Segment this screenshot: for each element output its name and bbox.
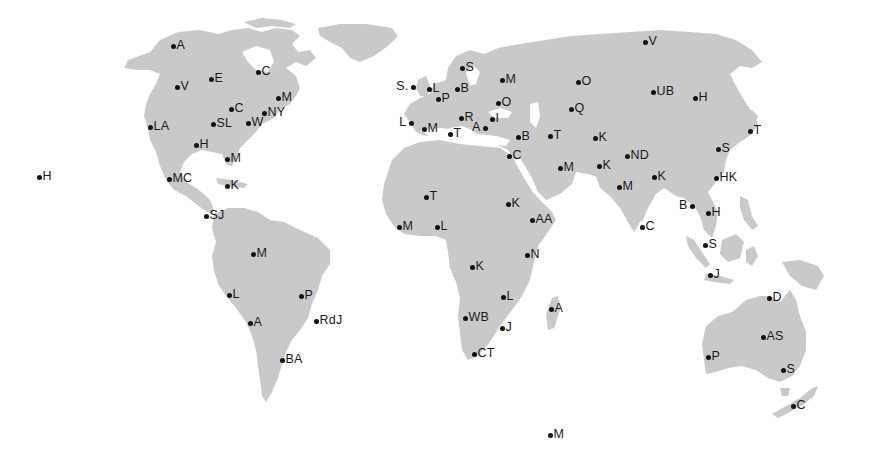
city-marker[interactable]: M [500,73,517,85]
city-dot-icon [167,177,172,182]
city-marker[interactable]: H [706,206,721,218]
city-marker[interactable]: WB [463,311,490,323]
city-marker[interactable]: L [399,116,413,128]
city-marker[interactable]: V [175,80,190,92]
city-dot-icon [652,175,657,180]
city-dot-icon [781,368,786,373]
city-marker[interactable]: S [460,61,475,73]
city-marker[interactable]: V [643,35,658,47]
city-dot-icon [507,154,512,159]
city-marker[interactable]: C [507,149,522,161]
city-marker[interactable]: A [549,302,564,314]
city-marker[interactable]: C [791,399,806,411]
city-marker[interactable]: LA [148,120,170,132]
city-dot-icon [299,294,304,299]
city-label: J [714,268,720,280]
city-label: B [522,130,531,142]
city-marker[interactable]: O [576,75,592,87]
city-marker[interactable]: CT [472,347,495,359]
city-dot-icon [248,321,253,326]
city-marker[interactable]: RdJ [314,314,343,326]
city-marker[interactable]: S [716,142,731,154]
city-marker[interactable]: J [708,268,720,280]
city-marker[interactable]: L [501,290,514,302]
city-marker[interactable]: S [781,363,796,375]
city-marker[interactable]: NY [262,106,286,118]
city-marker[interactable]: SJ [204,209,225,221]
city-label: C [513,149,522,161]
city-dot-icon [314,319,319,324]
city-marker[interactable]: M [558,161,575,173]
city-dot-icon [690,204,695,209]
city-marker[interactable]: I [490,112,500,124]
city-label: M [506,73,517,85]
city-label: H [43,170,52,182]
city-marker[interactable]: O [496,96,512,108]
city-marker[interactable]: P [706,350,721,362]
city-dot-icon [791,404,796,409]
city-marker[interactable]: M [422,122,439,134]
city-marker[interactable]: S [703,238,718,250]
city-marker[interactable]: H [194,138,209,150]
city-marker[interactable]: L [435,220,448,232]
city-marker[interactable]: B [516,130,531,142]
city-marker[interactable]: S. [396,80,415,92]
city-marker[interactable]: B [679,199,695,211]
city-marker[interactable]: HK [714,171,738,183]
city-marker[interactable]: M [617,180,634,192]
city-dot-icon [748,129,753,134]
city-marker[interactable]: K [470,260,485,272]
city-marker[interactable]: H [693,91,708,103]
city-marker[interactable]: M [397,220,414,232]
city-label: RdJ [320,314,343,326]
city-marker[interactable]: C [640,220,655,232]
city-marker[interactable]: A [248,316,263,328]
city-label: SL [217,117,233,129]
city-marker[interactable]: E [209,72,224,84]
city-marker[interactable]: K [597,159,612,171]
city-marker[interactable]: D [767,291,782,303]
city-marker[interactable]: Q [569,102,585,114]
city-marker[interactable]: T [748,124,762,136]
city-marker[interactable]: UB [651,85,675,97]
city-dot-icon [496,101,501,106]
city-dot-icon [617,185,622,190]
city-marker[interactable]: B [455,82,470,94]
city-marker[interactable]: AS [761,330,784,342]
city-dot-icon [693,96,698,101]
city-label: H [699,91,708,103]
city-marker[interactable]: L [227,288,240,300]
city-marker[interactable]: A [171,39,186,51]
city-dot-icon [548,433,553,438]
city-label: C [646,220,655,232]
city-marker[interactable]: J [500,321,512,333]
city-marker[interactable]: M [251,247,268,259]
city-marker[interactable]: M [225,152,242,164]
city-marker[interactable]: H [37,170,52,182]
city-label: M [257,247,268,259]
city-marker[interactable]: P [436,92,451,104]
city-marker[interactable]: T [424,190,438,202]
city-marker[interactable]: C [229,102,244,114]
city-marker[interactable]: AA [530,213,553,225]
city-marker[interactable]: MC [167,172,193,184]
city-marker[interactable]: K [225,179,240,191]
city-label: B [461,82,470,94]
city-dot-icon [397,225,402,230]
city-marker[interactable]: K [593,131,608,143]
city-marker[interactable]: ND [625,149,649,161]
city-marker[interactable]: T [548,129,562,141]
city-marker[interactable]: BA [280,353,303,365]
city-marker[interactable]: N [525,248,540,260]
city-marker[interactable]: SL [211,117,233,129]
city-label: M [282,91,293,103]
city-marker[interactable]: P [299,289,314,301]
city-marker[interactable]: C [256,65,271,77]
city-marker[interactable]: A [472,121,488,133]
city-marker[interactable]: W [246,116,264,128]
city-marker[interactable]: K [506,197,521,209]
city-marker[interactable]: T [448,127,462,139]
city-marker[interactable]: K [652,170,667,182]
city-marker[interactable]: M [276,91,293,103]
city-marker[interactable]: M [548,428,565,440]
